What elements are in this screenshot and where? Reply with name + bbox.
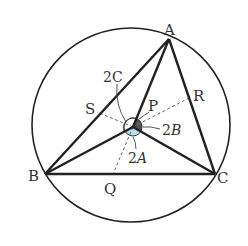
label-angle-2A: 2A (128, 150, 147, 166)
triangle-circumcircle-diagram: A B C P Q R S 2C 2B 2A (0, 0, 248, 246)
circumcircle (32, 28, 230, 222)
label-angle-2B: 2B (162, 122, 181, 138)
label-R: R (193, 87, 205, 105)
label-A: A (163, 21, 175, 39)
label-C: C (217, 169, 228, 187)
label-Q: Q (104, 180, 116, 198)
leader-2B (143, 127, 160, 129)
leader-2A (133, 137, 136, 149)
label-B: B (28, 167, 39, 185)
label-P: P (148, 97, 158, 115)
label-S: S (85, 100, 95, 118)
segment-PB (45, 127, 133, 174)
label-angle-2C: 2C (103, 69, 123, 85)
side-AC (169, 39, 215, 174)
